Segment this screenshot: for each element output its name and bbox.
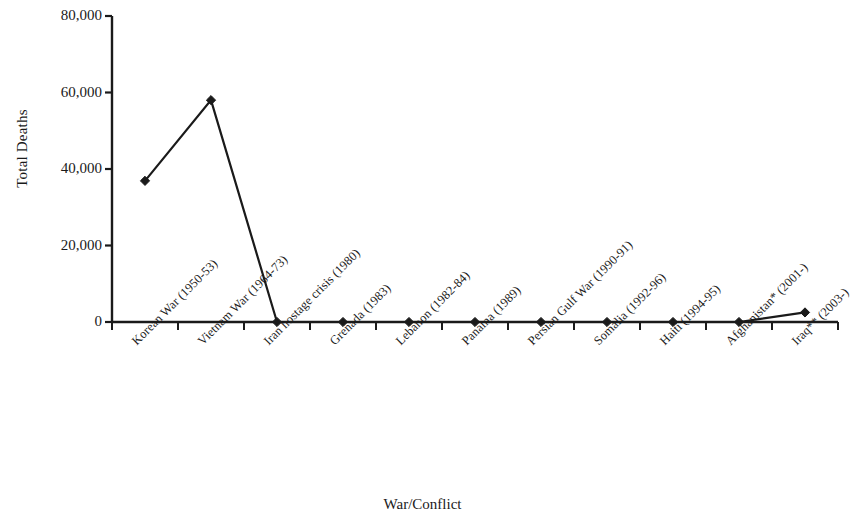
x-axis-tick-label: Grenada (1983) [327, 281, 394, 348]
x-axis-tick-label: Iraq** (2003-) [789, 285, 852, 348]
x-axis-tick-label: Panama (1989) [459, 283, 524, 348]
x-axis-title: War/Conflict [0, 496, 845, 513]
x-axis-tick-label: Persian Gulf War (1990-91) [525, 238, 636, 349]
x-axis-tick-label: Haiti (1994-95) [657, 282, 724, 349]
